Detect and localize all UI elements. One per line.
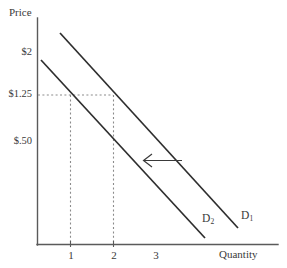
x-tick-label-3: 3 — [146, 250, 166, 261]
y-tick-label-50: $.50 — [0, 136, 32, 147]
x-tick-label-1: 1 — [61, 250, 81, 261]
x-axis-title: Quantity — [219, 249, 258, 260]
demand-curve-d1 — [60, 33, 238, 228]
y-axis-title: Price — [9, 7, 32, 18]
demand-shift-chart: Price Quantity $2 $1.25 $.50 1 2 3 D2 D1 — [0, 0, 287, 268]
y-tick-label-2: $2 — [0, 47, 32, 58]
curve-label-d1: D1 — [241, 210, 253, 222]
curve-label-d2-text: D — [202, 212, 210, 224]
demand-curve-d2 — [41, 60, 205, 238]
chart-plot-area — [0, 0, 287, 268]
curve-label-d2-subscript: 2 — [211, 217, 215, 226]
x-tick-label-2: 2 — [104, 250, 124, 261]
leftward-shift-arrow — [144, 154, 183, 167]
curve-label-d1-subscript: 1 — [250, 214, 254, 223]
y-tick-label-1-25: $1.25 — [0, 89, 32, 100]
curve-label-d2: D2 — [202, 213, 214, 225]
curve-label-d1-text: D — [241, 209, 249, 221]
